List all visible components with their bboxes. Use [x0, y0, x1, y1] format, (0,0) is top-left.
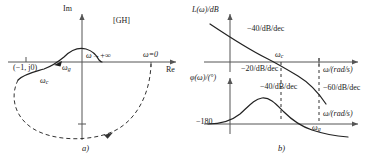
gh-plane-label: [GH]	[113, 17, 130, 25]
phase-crossover-label: ωg	[312, 124, 321, 132]
panel-bode: L(ω)/dB ω/(rad/s) φ(ω)/(°) ω/(rad/s) −40…	[190, 0, 379, 159]
panel-a-caption: a)	[82, 143, 89, 153]
imaginary-axis	[79, 14, 84, 140]
real-axis-label: Re	[166, 66, 175, 74]
slope-label-minus-20: −20/dB/dec	[241, 65, 278, 73]
panel-nyquist: Im Re [GH] (−1, j0) ω→+∞ ω=0 ωg ωc a)	[0, 0, 190, 159]
magnitude-axis-label: L(ω)/dB	[192, 6, 219, 14]
phase-omega-axis-label: ω/(rad/s)	[323, 110, 353, 118]
omega-g-label: ωg	[62, 64, 71, 72]
critical-point-label: (−1, j0)	[13, 64, 37, 72]
bode-drawing	[190, 0, 379, 159]
gain-crossover-label: ωc	[275, 51, 283, 59]
slope-label-minus-60: −60/dB/dec	[323, 84, 360, 92]
phase-reference-label: −180	[196, 118, 213, 126]
magnitude-value-axis	[227, 14, 232, 72]
phase-axis-label: φ(ω)/(°)	[190, 74, 216, 82]
slope-label-minus-40-lower: −40/dB/dec	[260, 83, 297, 91]
omega-c-label: ωc	[40, 77, 48, 85]
slope-label-minus-40-upper: −40/dB/dec	[247, 25, 284, 33]
phase-value-axis	[227, 78, 232, 134]
phase-omega-axis	[204, 121, 358, 126]
nyquist-drawing	[0, 0, 190, 159]
magnitude-omega-axis-label: ω/(rad/s)	[323, 66, 353, 74]
nyquist-dashed-curve	[14, 64, 151, 139]
omega-to-infinity-label: ω→+∞	[86, 52, 111, 60]
gain-crossover-subscript: c	[281, 53, 284, 59]
omega-c-subscript: c	[46, 79, 49, 85]
panel-b-caption: b)	[278, 143, 285, 153]
figure-root: Im Re [GH] (−1, j0) ω→+∞ ω=0 ωg ωc a)	[0, 0, 379, 159]
omega-g-subscript: g	[68, 66, 71, 72]
imaginary-axis-label: Im	[63, 5, 72, 13]
phase-crossover-subscript: g	[318, 126, 321, 132]
omega-zero-label: ω=0	[143, 51, 158, 59]
